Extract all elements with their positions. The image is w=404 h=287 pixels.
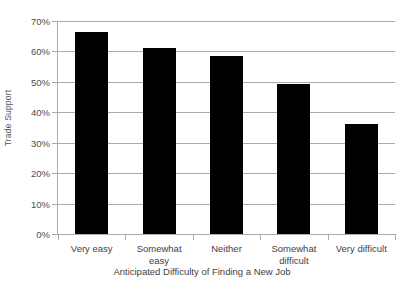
plot-area — [58, 21, 395, 234]
y-axis-tick-label: 60% — [2, 46, 50, 57]
x-axis-title: Anticipated Difficulty of Finding a New … — [0, 266, 404, 277]
bar — [277, 84, 310, 234]
x-axis-tick — [328, 234, 329, 240]
x-axis-label: Somewhat easy — [125, 243, 192, 266]
bar — [345, 124, 378, 234]
x-axis-tick — [58, 234, 59, 240]
y-axis-tick-label: 10% — [2, 198, 50, 209]
gridline — [58, 51, 395, 52]
x-axis-tick — [260, 234, 261, 240]
bar — [143, 48, 176, 234]
y-axis-tick-label: 70% — [2, 16, 50, 27]
y-axis-tick-label: 50% — [2, 76, 50, 87]
bar — [75, 32, 108, 234]
y-axis-tick-label: 40% — [2, 107, 50, 118]
x-axis-label: Very difficult — [328, 243, 395, 255]
y-axis-tick-label: 0% — [2, 229, 50, 240]
x-axis-label: Somewhat difficult — [260, 243, 327, 266]
x-axis-tick — [125, 234, 126, 240]
y-axis-tick-label: 30% — [2, 137, 50, 148]
gridline — [58, 234, 395, 235]
bar-chart: Trade Support 0%10%20%30%40%50%60%70% Ve… — [0, 0, 404, 287]
y-axis-tick-label: 20% — [2, 168, 50, 179]
x-axis-tick — [395, 234, 396, 240]
x-axis-label: Very easy — [58, 243, 125, 255]
bar — [210, 56, 243, 234]
x-axis-label: Neither — [193, 243, 260, 255]
gridline — [58, 21, 395, 22]
x-axis-tick — [193, 234, 194, 240]
